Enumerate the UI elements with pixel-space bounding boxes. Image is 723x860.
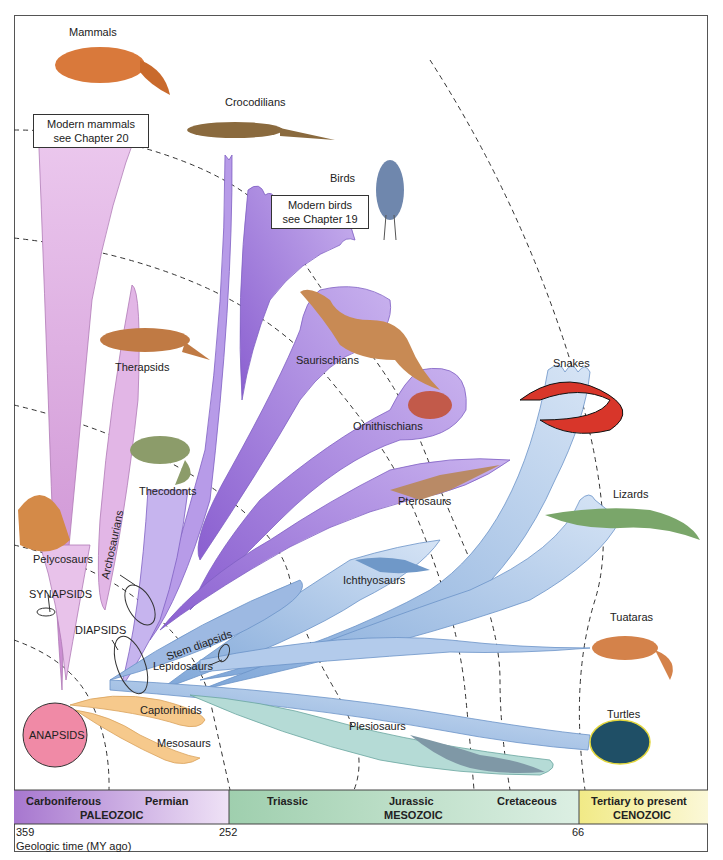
callout-mammals-line2: see Chapter 20: [38, 131, 144, 145]
label-therapsids: Therapsids: [115, 362, 169, 373]
label-turtles: Turtles: [607, 709, 640, 720]
callout-modern-mammals: Modern mammals see Chapter 20: [33, 114, 149, 148]
label-saurischians: Saurischians: [296, 355, 359, 366]
period-jurassic: Jurassic: [389, 795, 434, 807]
label-birds: Birds: [330, 173, 355, 184]
label-anapsids: ANAPSIDS: [29, 730, 85, 741]
label-pterosaurs: Pterosaurs: [398, 496, 451, 507]
tick-252: 252: [219, 826, 237, 838]
label-mammals: Mammals: [69, 27, 117, 38]
label-ornithischians: Ornithischians: [353, 421, 423, 432]
axis-label: Geologic time (MY ago): [16, 840, 131, 852]
label-lepidosaurs: Lepidosaurs: [153, 661, 213, 672]
era-cenozoic: Tertiary to present CENOZOIC: [579, 790, 708, 824]
amniote-phylogeny-diagram: Mammals Modern mammals see Chapter 20 Cr…: [0, 0, 723, 860]
era-paleozoic: Carboniferous Permian PALEOZOIC: [14, 790, 229, 824]
period-permian: Permian: [145, 795, 188, 807]
period-tertiary: Tertiary to present: [591, 795, 687, 807]
label-lizards: Lizards: [613, 489, 648, 500]
period-cretaceous: Cretaceous: [497, 795, 557, 807]
tick-359: 359: [16, 826, 34, 838]
callout-birds-line1: Modern birds: [276, 198, 364, 212]
label-synapsids: SYNAPSIDS: [29, 589, 92, 600]
label-ichthyosaurs: Ichthyosaurs: [343, 575, 405, 586]
label-snakes: Snakes: [553, 358, 590, 369]
era-label-cenozoic: CENOZOIC: [613, 809, 671, 821]
pelycosaurs-branch: [40, 545, 90, 680]
label-captorhinids: Captorhinids: [140, 705, 202, 716]
label-mesosaurs: Mesosaurs: [157, 738, 211, 749]
label-pelycosaurs: Pelycosaurs: [33, 554, 93, 565]
label-diapsids: DIAPSIDS: [75, 625, 126, 636]
tick-66: 66: [572, 826, 584, 838]
callout-mammals-line1: Modern mammals: [38, 117, 144, 131]
era-label-paleozoic: PALEOZOIC: [80, 809, 143, 821]
era-label-mesozoic: MESOZOIC: [384, 809, 443, 821]
era-mesozoic: Triassic Jurassic Cretaceous MESOZOIC: [229, 790, 579, 824]
callout-birds-line2: see Chapter 19: [276, 212, 364, 226]
label-plesiosaurs: Plesiosaurs: [349, 721, 406, 732]
period-triassic: Triassic: [267, 795, 308, 807]
period-carboniferous: Carboniferous: [26, 795, 101, 807]
label-thecodonts: Thecodonts: [139, 486, 196, 497]
label-tuataras: Tuataras: [610, 612, 653, 623]
label-crocodilians: Crocodilians: [225, 97, 286, 108]
callout-modern-birds: Modern birds see Chapter 19: [271, 195, 369, 229]
